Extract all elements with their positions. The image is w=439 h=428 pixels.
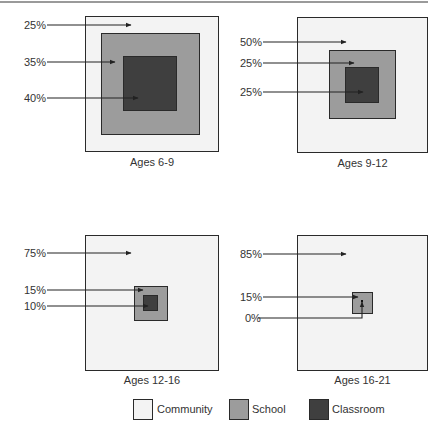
community-percent-label: 25%	[24, 19, 46, 31]
community-percent-label: 75%	[24, 247, 46, 259]
legend-swatch-school	[229, 399, 249, 420]
classroom-percent-label: 0%	[245, 312, 261, 324]
top-rule	[0, 1, 428, 3]
legend-label-school: School	[252, 403, 286, 416]
classroom-square	[143, 295, 158, 311]
legend-label-community: Community	[157, 403, 213, 416]
classroom-square	[345, 67, 379, 103]
classroom-percent-label: 25%	[240, 86, 262, 98]
community-percent-label: 50%	[240, 36, 262, 48]
legend-label-classroom: Classroom	[332, 403, 385, 416]
school-percent-label: 25%	[240, 57, 262, 69]
panel-caption: Ages 16-21	[297, 374, 428, 386]
classroom-percent-label: 10%	[24, 300, 46, 312]
legend-swatch-community	[133, 399, 153, 420]
classroom-square	[123, 56, 177, 111]
community-percent-label: 85%	[240, 248, 262, 260]
school-percent-label: 15%	[240, 291, 262, 303]
panel-caption: Ages 6-9	[85, 156, 219, 168]
classroom-percent-label: 40%	[24, 92, 46, 104]
legend-swatch-classroom	[309, 399, 329, 420]
school-square	[352, 292, 373, 314]
school-percent-label: 35%	[24, 56, 46, 68]
panel-caption: Ages 9-12	[297, 157, 428, 169]
panel-caption: Ages 12-16	[85, 374, 219, 386]
school-percent-label: 15%	[24, 284, 46, 296]
